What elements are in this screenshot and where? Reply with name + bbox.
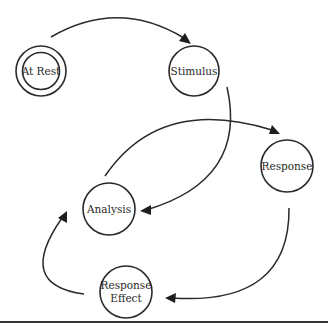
edge-analysis-to-response [105,119,280,176]
state-cycle-diagram: At Rest Stimulus Response Analysis Respo… [0,0,328,330]
node-analysis: Analysis [83,183,135,235]
arrowhead-icon [165,293,176,303]
node-label-line2: Effect [110,292,142,304]
edge-path [146,87,231,210]
arrowhead-icon [269,125,280,134]
edge-path [105,119,272,176]
edge-response-effect-to-analysis [43,211,84,294]
node-stimulus: Stimulus [169,46,219,96]
edge-at-rest-to-stimulus [51,18,191,44]
edge-stimulus-to-analysis [140,87,231,215]
arrowhead-icon [179,33,191,44]
node-label: Response [262,160,313,172]
node-label-line1: Response [101,279,152,291]
node-label: At Rest [21,65,61,77]
edge-path [172,208,289,299]
edge-path [51,18,184,38]
node-response: Response [261,140,313,192]
arrowhead-icon [140,205,151,215]
edge-path [43,218,84,294]
bottom-rule-divider [0,321,328,323]
node-at-rest: At Rest [16,46,66,96]
edge-response-to-response-effect [165,208,289,303]
node-response-effect: Response Effect [100,266,152,318]
node-label: Stimulus [171,65,218,77]
node-label: Analysis [86,203,131,215]
